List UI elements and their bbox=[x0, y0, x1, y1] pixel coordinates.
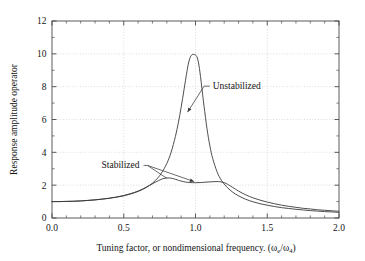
y-tick-label: 10 bbox=[37, 49, 47, 59]
x-tick-label: 1.5 bbox=[261, 223, 273, 233]
x-axis-label-close: ) bbox=[292, 243, 295, 254]
x-axis-label: Tuning factor, or nondimensional frequen… bbox=[96, 243, 295, 254]
annotation-label-stabilized: Stabilized bbox=[102, 160, 140, 170]
annotation-label-unstabilized: Unstabilized bbox=[213, 81, 261, 91]
chart-figure: 0.00.51.01.52.0 024681012 UnstabilizedSt… bbox=[0, 0, 365, 261]
response-amplitude-operator-chart: 0.00.51.01.52.0 024681012 UnstabilizedSt… bbox=[0, 0, 365, 261]
y-tick-label: 12 bbox=[37, 16, 47, 26]
y-axis-label: Response amplitude operator bbox=[9, 63, 19, 175]
x-tick-label: 0.0 bbox=[46, 223, 58, 233]
y-tick-label: 2 bbox=[42, 181, 47, 191]
x-tick-label: 0.5 bbox=[118, 223, 130, 233]
y-tick-label: 0 bbox=[42, 213, 47, 223]
x-tick-label: 2.0 bbox=[333, 223, 345, 233]
y-tick-label: 8 bbox=[42, 82, 47, 92]
x-tick-label: 1.0 bbox=[190, 223, 202, 233]
x-axis-label-main: Tuning factor, or nondimensional frequen… bbox=[96, 243, 271, 254]
y-tick-label: 4 bbox=[42, 148, 47, 158]
y-tick-label: 6 bbox=[42, 115, 47, 125]
